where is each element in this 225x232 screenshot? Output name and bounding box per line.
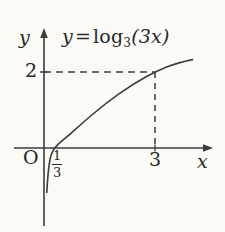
equation-operator: = bbox=[73, 25, 93, 47]
log-curve bbox=[47, 60, 193, 193]
y-axis-label: y bbox=[19, 28, 30, 47]
x-axis-label: x bbox=[197, 152, 208, 171]
fraction-numerator: 1 bbox=[52, 149, 62, 165]
equation-lhs: y bbox=[62, 25, 73, 47]
y-axis-arrow-icon bbox=[40, 28, 48, 38]
equation-title: y=log3(3x) bbox=[62, 27, 170, 49]
y-tick-label-2: 2 bbox=[25, 61, 37, 80]
fraction-one-third: 1 3 bbox=[52, 149, 62, 179]
x-tick-label-one-third: 1 3 bbox=[52, 149, 62, 179]
fraction-denominator: 3 bbox=[52, 165, 62, 180]
equation-argument: (3x) bbox=[131, 25, 169, 47]
equation-base: 3 bbox=[123, 36, 131, 50]
equation-function-name: log bbox=[93, 25, 123, 47]
x-tick-label-3: 3 bbox=[149, 150, 161, 169]
origin-label: O bbox=[23, 148, 39, 167]
log-function-figure: y=log3(3x) y x O 2 3 1 3 bbox=[0, 0, 225, 232]
